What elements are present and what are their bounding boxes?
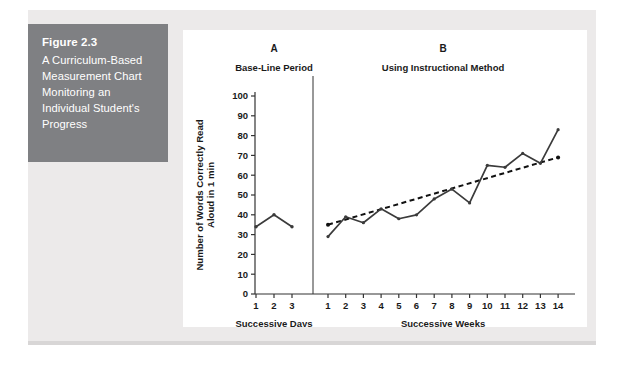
y-axis-tick-label: 10	[237, 269, 248, 280]
y-axis-tick-label: 70	[237, 150, 248, 161]
x-axis-tick-label-days: 3	[289, 300, 294, 311]
y-axis-tick-label: 20	[237, 249, 248, 260]
x-axis-tick-label-weeks: 7	[432, 300, 437, 311]
baseline-data-point	[272, 213, 275, 216]
cbm-progress-chart: ABase-Line PeriodBUsing Instructional Me…	[183, 30, 587, 327]
x-axis-tick-label-weeks: 9	[467, 300, 472, 311]
x-axis-tick-label-weeks: 12	[517, 300, 528, 311]
intervention-data-point	[468, 201, 471, 204]
x-axis-tick-label-weeks: 5	[396, 300, 402, 311]
y-axis-tick-label: 80	[237, 130, 248, 141]
y-axis-tick-label: 50	[237, 189, 248, 200]
figure-caption-text: A Curriculum-Based Measurement Chart Mon…	[42, 52, 158, 132]
intervention-data-point	[503, 166, 506, 169]
x-axis-tick-label-weeks: 6	[414, 300, 419, 311]
x-axis-tick-label-days: 2	[271, 300, 276, 311]
y-axis-tick-label: 0	[243, 288, 248, 299]
y-axis-tick-label: 40	[237, 209, 248, 220]
y-axis-tick-label: 30	[237, 229, 248, 240]
baseline-data-point	[290, 225, 293, 228]
figure-number: Figure 2.3	[42, 35, 158, 51]
intervention-data-line	[328, 130, 558, 237]
y-axis-tick-label: 90	[237, 110, 248, 121]
intervention-data-point	[521, 152, 524, 155]
y-axis-title: Number of Words Correctly ReadAloud in 1…	[194, 119, 216, 270]
intervention-data-point	[415, 213, 418, 216]
x-axis-tick-label-weeks: 2	[343, 300, 348, 311]
x-axis-title-weeks: Successive Weeks	[401, 318, 485, 327]
x-axis-tick-label-weeks: 10	[482, 300, 493, 311]
intervention-data-point	[326, 235, 329, 238]
trend-line-start-point	[326, 223, 330, 227]
x-axis-tick-label-weeks: 14	[553, 300, 564, 311]
trend-line-end-point	[556, 155, 560, 159]
x-axis-tick-label-days: 1	[253, 300, 259, 311]
phase-a-letter: A	[270, 43, 277, 54]
intervention-data-point	[397, 217, 400, 220]
phase-b-letter: B	[439, 43, 446, 54]
intervention-data-point	[362, 221, 365, 224]
intervention-data-point	[450, 187, 453, 190]
y-axis-tick-label: 100	[232, 90, 248, 101]
x-axis-tick-label-weeks: 4	[378, 300, 384, 311]
page-backdrop-shadow	[28, 341, 596, 345]
x-axis-tick-label-weeks: 3	[361, 300, 366, 311]
intervention-data-point	[344, 215, 347, 218]
trend-line	[328, 157, 558, 224]
intervention-data-point	[486, 164, 489, 167]
intervention-data-point	[557, 128, 560, 131]
baseline-data-line	[256, 215, 292, 227]
intervention-data-point	[539, 162, 542, 165]
x-axis-tick-label-weeks: 8	[449, 300, 454, 311]
phase-b-title: Using Instructional Method	[382, 62, 505, 73]
figure-caption-box: Figure 2.3 A Curriculum-Based Measuremen…	[28, 24, 168, 162]
intervention-data-point	[380, 207, 383, 210]
x-axis-tick-label-weeks: 1	[325, 300, 331, 311]
figure-page: Figure 2.3 A Curriculum-Based Measuremen…	[0, 0, 623, 366]
intervention-data-point	[433, 197, 436, 200]
chart-panel: ABase-Line PeriodBUsing Instructional Me…	[183, 30, 587, 327]
baseline-data-point	[254, 225, 257, 228]
x-axis-tick-label-weeks: 11	[500, 300, 511, 311]
phase-a-title: Base-Line Period	[235, 62, 313, 73]
x-axis-title-days: Successive Days	[235, 318, 312, 327]
y-axis-tick-label: 60	[237, 170, 248, 181]
x-axis-tick-label-weeks: 13	[535, 300, 546, 311]
